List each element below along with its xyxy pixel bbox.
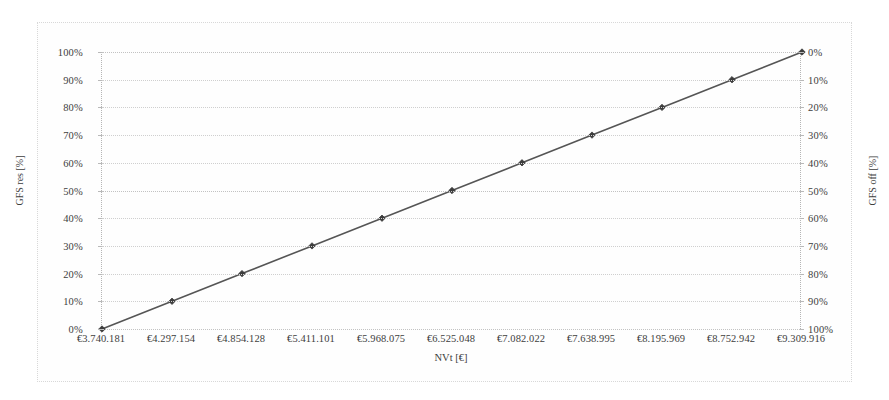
tick-mark-left (98, 80, 102, 81)
tick-mark-right (800, 191, 804, 192)
tick-mark-left (98, 218, 102, 219)
x-axis-tick-label: €7.638.995 (567, 333, 615, 344)
chart-figure: 0%10%20%30%40%50%60%70%80%90%100% 0%10%2… (0, 0, 889, 400)
tick-mark-right (800, 80, 804, 81)
x-axis-title: NVt [€] (101, 352, 801, 363)
y-axis-left-tick-label: 90% (13, 74, 83, 85)
plot-area (101, 52, 801, 329)
tick-mark-right (800, 135, 804, 136)
x-axis-tick-label: €8.752.942 (707, 333, 755, 344)
y-axis-right-tick-label: 0% (808, 47, 878, 58)
y-axis-right-tick-label: 80% (808, 268, 878, 279)
x-axis-tick-label: €4.854.128 (217, 333, 265, 344)
gridline (102, 274, 800, 275)
tick-mark-right (800, 274, 804, 275)
y-axis-left-tick-label: 20% (13, 268, 83, 279)
tick-mark-left (98, 52, 102, 53)
tick-mark-left (98, 163, 102, 164)
x-axis-tick-label: €4.297.154 (147, 333, 195, 344)
x-axis-tick-label: €9.309.916 (777, 333, 825, 344)
y-axis-left-tick-label: 0% (13, 324, 83, 335)
tick-mark-left (98, 191, 102, 192)
x-axis-tick-label: €5.968.075 (357, 333, 405, 344)
x-axis-tick-label: €8.195.969 (637, 333, 685, 344)
y-axis-left-tick-label: 30% (13, 240, 83, 251)
y-axis-right-tick-label: 10% (808, 74, 878, 85)
y-axis-left-tick-label: 10% (13, 296, 83, 307)
y-axis-left-title: GFS res [%] (14, 126, 25, 236)
x-axis-tick-label: €3.740.181 (77, 333, 125, 344)
y-axis-left-tick-label: 80% (13, 102, 83, 113)
gridline (102, 191, 800, 192)
gridline (102, 163, 800, 164)
tick-mark-right (800, 107, 804, 108)
y-axis-right-tick-label: 20% (808, 102, 878, 113)
tick-mark-right (800, 163, 804, 164)
x-axis-tick-label: €5.411.101 (287, 333, 335, 344)
tick-mark-left (98, 107, 102, 108)
tick-mark-left (98, 246, 102, 247)
gridline (102, 52, 800, 53)
gridline (102, 218, 800, 219)
y-axis-right-tick-label: 70% (808, 240, 878, 251)
gridline (102, 301, 800, 302)
gridline (102, 135, 800, 136)
x-axis-ticks: €3.740.181€4.297.154€4.854.128€5.411.101… (101, 333, 801, 349)
gridline (102, 329, 800, 330)
tick-mark-right (800, 218, 804, 219)
tick-mark-right (800, 301, 804, 302)
tick-mark-right (800, 246, 804, 247)
tick-mark-left (98, 329, 102, 330)
x-axis-tick-label: €6.525.048 (427, 333, 475, 344)
tick-mark-left (98, 135, 102, 136)
tick-mark-left (98, 274, 102, 275)
tick-mark-right (800, 52, 804, 53)
y-axis-right-tick-label: 90% (808, 296, 878, 307)
x-axis-tick-label: €7.082.022 (497, 333, 545, 344)
tick-mark-left (98, 301, 102, 302)
gridline (102, 80, 800, 81)
y-axis-right-title: GFS off [%] (867, 126, 878, 236)
gridline (102, 107, 800, 108)
y-axis-left-tick-label: 100% (13, 47, 83, 58)
tick-mark-right (800, 329, 804, 330)
gridline (102, 246, 800, 247)
